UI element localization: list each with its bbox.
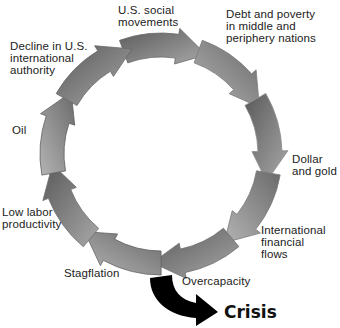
node-stagflation: Stagflation	[64, 267, 119, 279]
node-us-social-movements: U.S. social movements	[118, 4, 178, 28]
clockwise-arrow-segment-icon	[245, 93, 288, 181]
cycle-diagram: U.S. social movements Debt and poverty i…	[0, 0, 340, 328]
clockwise-arrow-segment-icon	[120, 28, 207, 64]
clockwise-arrow-segment-icon	[152, 228, 238, 278]
node-low-labor-productivity: Low labor productivity	[2, 206, 61, 230]
node-oil: Oil	[12, 124, 26, 136]
node-dollar-gold: Dollar and gold	[292, 153, 337, 177]
node-decline-us-authority: Decline in U.S. international authority	[10, 40, 88, 76]
clockwise-arrow-segment-icon	[40, 92, 75, 175]
node-international-financial-flows: International financial flows	[261, 224, 326, 260]
node-debt-poverty: Debt and poverty in middle and periphery…	[226, 8, 316, 44]
node-overcapacity: Overcapacity	[182, 275, 250, 287]
outcome-crisis: Crisis	[224, 302, 277, 322]
clockwise-arrow-segment-icon	[194, 40, 259, 107]
